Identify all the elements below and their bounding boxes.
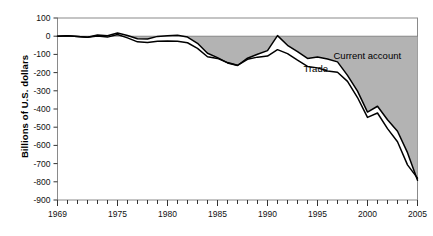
y-tick-label: -800 xyxy=(33,177,50,187)
y-tick-label: -700 xyxy=(33,159,50,169)
x-tick-label: 1969 xyxy=(48,209,67,219)
x-tick-label: 1985 xyxy=(208,209,227,219)
y-tick-label: -300 xyxy=(33,86,50,96)
x-tick-label: 1975 xyxy=(108,209,127,219)
y-tick-label: -500 xyxy=(33,122,50,132)
series-annotation-trade: Trade xyxy=(304,63,328,74)
chart-figure: Billions of U.S. dollars 1000-100-200-30… xyxy=(0,0,433,236)
y-tick-label: -600 xyxy=(33,140,50,150)
series-annotation-current-account: Current account xyxy=(334,50,402,61)
chart-plot-area: 1000-100-200-300-400-500-600-700-800-900… xyxy=(0,0,433,236)
x-tick-label: 1980 xyxy=(158,209,177,219)
y-tick-label: -900 xyxy=(33,195,50,205)
x-tick-label: 1990 xyxy=(258,209,277,219)
y-tick-label: 100 xyxy=(36,13,50,23)
y-tick-label: -100 xyxy=(33,49,50,59)
y-tick-label: -200 xyxy=(33,68,50,78)
y-axis-title: Billions of U.S. dollars xyxy=(19,17,30,197)
y-tick-label: -400 xyxy=(33,104,50,114)
x-tick-label: 2000 xyxy=(358,209,377,219)
x-tick-label: 2005 xyxy=(408,209,427,219)
x-tick-label: 1995 xyxy=(308,209,327,219)
y-tick-label: 0 xyxy=(46,31,51,41)
